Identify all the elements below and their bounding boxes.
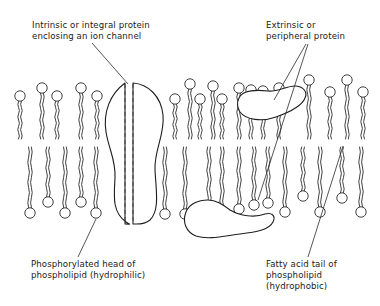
phosphate-head	[249, 200, 259, 210]
phosphate-head	[358, 87, 368, 97]
fatty-acid-tail	[211, 91, 213, 139]
peripheral-protein-upper	[238, 86, 306, 120]
phosphate-head	[185, 79, 195, 89]
fatty-acid-tail	[98, 101, 100, 139]
label-line: Intrinsic or integral protein	[32, 20, 150, 31]
label-phospholipid-head: Phosphorylated head of phospholipid (hyd…	[31, 259, 145, 281]
phosphate-head	[52, 91, 62, 101]
fatty-acid-tail	[79, 147, 81, 197]
phospholipid	[304, 75, 314, 139]
phospholipid	[92, 91, 102, 139]
fatty-acid-tail	[176, 104, 178, 139]
phospholipid	[170, 94, 180, 139]
phospholipid	[298, 147, 308, 201]
fatty-acid-tail	[359, 147, 361, 207]
phospholipid	[15, 91, 25, 139]
phosphate-head	[208, 81, 218, 91]
label-extrinsic-protein: Extrinsic or peripheral protein	[266, 20, 345, 42]
fatty-acid-tail	[163, 147, 165, 209]
phospholipid	[185, 79, 195, 139]
phospholipid	[52, 91, 62, 139]
phospholipid	[76, 147, 86, 207]
label-line: enclosing an ion channel	[32, 31, 150, 42]
fatty-acid-tail	[97, 147, 99, 208]
fatty-acid-tail	[362, 147, 364, 207]
label-line: phospholipid	[266, 270, 337, 281]
fatty-acid-tail	[269, 147, 271, 198]
label-line: Extrinsic or	[266, 20, 345, 31]
fatty-acid-tail	[31, 147, 33, 208]
fatty-acid-tail	[240, 147, 242, 204]
phospholipid	[25, 147, 35, 218]
fatty-acid-tail	[186, 147, 188, 209]
phospholipid	[91, 147, 101, 218]
phosphate-head	[43, 197, 53, 207]
phosphate-head	[356, 207, 366, 217]
phosphate-head	[60, 208, 70, 218]
phosphate-head	[25, 208, 35, 218]
fatty-acid-tail	[82, 93, 84, 139]
fatty-acid-tail	[220, 104, 222, 139]
fatty-acid-tail	[191, 89, 193, 139]
fatty-acid-tail	[95, 101, 97, 139]
phosphate-head	[263, 198, 273, 208]
fatty-acid-tail	[318, 147, 320, 207]
fatty-acid-tail	[79, 93, 81, 139]
fatty-acid-tail	[49, 147, 51, 197]
label-intrinsic-protein: Intrinsic or integral protein enclosing …	[32, 20, 150, 42]
phospholipid	[217, 94, 227, 139]
membrane-diagram: Intrinsic or integral protein enclosing …	[0, 0, 380, 306]
label-line: Phosphorylated head of	[31, 259, 145, 270]
leader-intrinsic	[92, 43, 128, 84]
phospholipid	[325, 87, 335, 139]
phospholipid	[37, 83, 47, 139]
fatty-acid-tail	[21, 101, 23, 139]
fatty-acid-tail	[166, 147, 168, 209]
phospholipid	[208, 81, 218, 139]
fatty-acid-tail	[82, 147, 84, 197]
fatty-acid-tail	[348, 85, 350, 139]
fatty-acid-tail	[183, 147, 185, 209]
leader-head	[78, 219, 96, 257]
fatty-acid-tail	[252, 147, 254, 200]
phosphate-head	[342, 75, 352, 85]
fatty-acid-tail	[173, 104, 175, 139]
fatty-acid-tail	[40, 93, 42, 139]
fatty-acid-tail	[198, 104, 200, 139]
phospholipid	[43, 147, 53, 207]
fatty-acid-tail	[343, 147, 345, 193]
fatty-acid-tail	[304, 147, 306, 191]
phosphate-head	[37, 83, 47, 93]
fatty-acid-tail	[310, 85, 312, 139]
phosphate-head	[195, 94, 205, 104]
fatty-acid-tail	[223, 104, 225, 139]
phosphate-head	[337, 193, 347, 203]
fatty-acid-tail	[58, 101, 60, 139]
phosphate-head	[76, 197, 86, 207]
fatty-acid-tail	[286, 147, 288, 207]
fatty-acid-tail	[214, 91, 216, 139]
fatty-acid-tail	[188, 89, 190, 139]
fatty-acid-tail	[223, 147, 225, 206]
fatty-acid-tail	[46, 147, 48, 197]
fatty-acid-tail	[361, 97, 363, 139]
phosphate-head	[325, 87, 335, 97]
label-line: phospholipid (hydrophilic)	[31, 270, 145, 281]
label-line: (hydrophobic)	[266, 281, 337, 292]
phospholipid	[195, 94, 205, 139]
fatty-acid-tail	[201, 104, 203, 139]
fatty-acid-tail	[301, 147, 303, 191]
fatty-acid-tail	[94, 147, 96, 208]
phosphate-head	[304, 75, 314, 85]
phosphate-head	[15, 91, 25, 101]
label-fatty-acid-tail: Fatty acid tail of phospholipid (hydroph…	[266, 259, 337, 292]
fatty-acid-tail	[66, 147, 68, 208]
phospholipid	[358, 87, 368, 139]
fatty-acid-tail	[28, 147, 30, 208]
phospholipid	[76, 83, 86, 139]
label-line: Fatty acid tail of	[266, 259, 337, 270]
fatty-acid-tail	[43, 93, 45, 139]
peripheral-protein-lower	[184, 200, 274, 238]
fatty-acid-tail	[307, 85, 309, 139]
phospholipid	[234, 147, 244, 214]
